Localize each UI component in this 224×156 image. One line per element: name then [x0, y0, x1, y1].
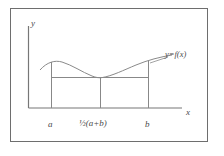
function-curve: [40, 55, 172, 78]
figure-border: [11, 9, 208, 142]
y-axis-label: y: [31, 19, 35, 28]
curve-label-function: y=f(x): [165, 50, 186, 59]
figure-container: y x a ½(a+b) b y=f(x): [0, 0, 224, 156]
tick-label-a: a: [48, 120, 53, 129]
x-axis-label: x: [186, 108, 190, 117]
tick-label-b: b: [145, 120, 150, 129]
tick-label-midpoint: ½(a+b): [79, 119, 107, 128]
